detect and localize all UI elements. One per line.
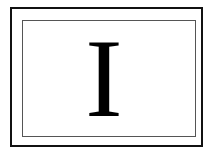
letter-glyph: I [0,0,208,153]
